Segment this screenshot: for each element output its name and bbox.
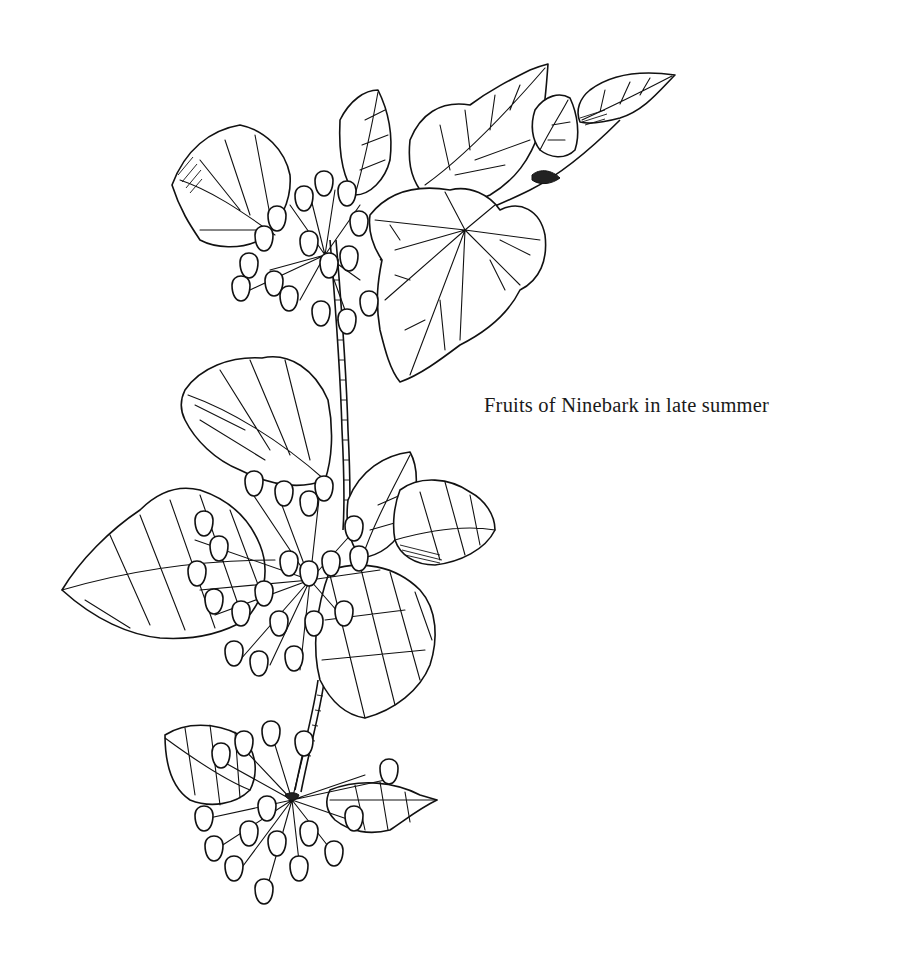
bottom-cluster bbox=[165, 721, 437, 904]
middle-leaves bbox=[62, 357, 495, 718]
large-palmate-leaf bbox=[370, 188, 546, 382]
upper-right-leaves bbox=[409, 64, 675, 200]
ninebark-illustration bbox=[0, 0, 897, 961]
ninebark-line-drawing bbox=[0, 0, 897, 961]
figure-caption: Fruits of Ninebark in late summer bbox=[484, 394, 769, 417]
book-page: Fruits of Ninebark in late summer bbox=[0, 0, 897, 961]
